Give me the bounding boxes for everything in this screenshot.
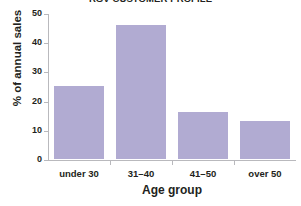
x-axis-title: Age group: [48, 183, 296, 197]
y-tick: 30: [48, 72, 296, 73]
x-tick-label: 31–40: [110, 168, 172, 179]
x-tick-label: under 30: [48, 168, 110, 179]
bar: [54, 86, 104, 159]
y-axis-title: % of annual sales: [11, 0, 23, 123]
bar-chart-figure: RGV CUSTOMER PROFILE % of annual sales 0…: [0, 0, 301, 206]
x-tick-mark: [110, 161, 111, 165]
y-tick-label: 40: [32, 37, 42, 47]
y-tick-label: 50: [32, 8, 42, 18]
chart-title: RGV CUSTOMER PROFILE: [0, 0, 301, 3]
y-tick-label: 10: [32, 125, 42, 135]
y-tick-mark: [44, 72, 49, 73]
y-tick-label: 0: [37, 154, 42, 164]
y-tick: 50: [48, 14, 296, 15]
y-tick-mark: [44, 160, 49, 161]
bar: [178, 112, 228, 159]
y-tick-mark: [44, 43, 49, 44]
y-tick-label: 30: [32, 66, 42, 76]
x-tick-mark: [234, 161, 235, 165]
y-axis-line: [48, 14, 49, 161]
x-tick-mark: [172, 161, 173, 165]
bar: [116, 25, 166, 159]
y-tick-mark: [44, 131, 49, 132]
x-tick-label: over 50: [234, 168, 296, 179]
bar: [240, 121, 290, 159]
y-tick-mark: [44, 102, 49, 103]
plot-area: 01020304050 under 3031–4041–50over 50: [48, 14, 296, 160]
y-tick: 40: [48, 43, 296, 44]
y-tick-mark: [44, 14, 49, 15]
x-tick-label: 41–50: [172, 168, 234, 179]
y-tick-label: 20: [32, 96, 42, 106]
